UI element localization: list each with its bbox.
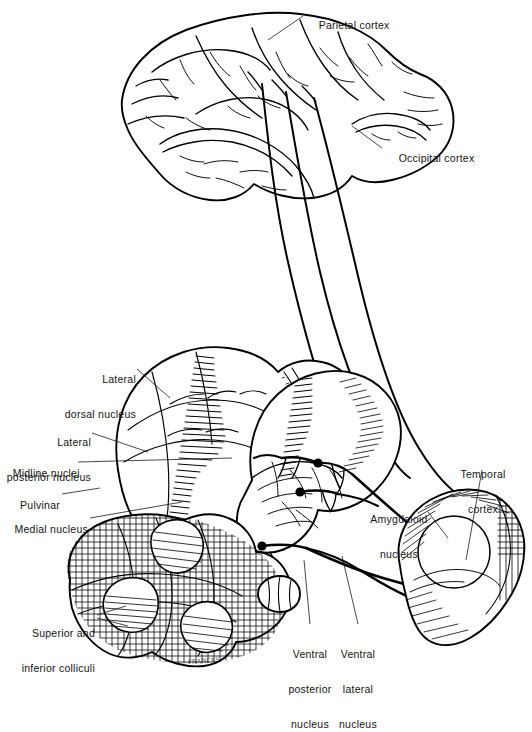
label-medial-nucleus-text: Medial nucleus [14,523,88,535]
label-temporal-cortex-line1: Temporal [448,469,518,481]
label-occipital-cortex: Occipital cortex [386,141,474,176]
label-midline-nuclei-text: Midline nuclei [13,467,80,479]
label-amygdaloid-line2: nucleus [363,549,435,561]
label-parietal-cortex: Parietal cortex [306,8,390,43]
artist-signature: FRANCES [188,656,220,666]
label-occipital-cortex-text: Occipital cortex [399,152,475,164]
label-lateral-posterior-nucleus-line1: Lateral [0,437,91,449]
label-ventral-lateral-line2: lateral [327,684,389,696]
label-ventral-lateral-nucleus: Ventral lateral nucleus [327,626,389,732]
label-medial-nucleus: Medial nucleus [0,512,88,547]
label-colliculi-line1: Superior and [0,628,95,640]
label-lateral-dorsal-nucleus-line1: Lateral [0,374,136,386]
label-parietal-cortex-text: Parietal cortex [319,19,390,31]
label-ventral-lateral-line1: Ventral [327,649,389,661]
label-temporal-cortex-line2: cortex [448,504,518,516]
label-midline-nuclei: Midline nuclei [0,456,76,491]
svg-text:FRANCES: FRANCES [188,656,220,666]
label-ventral-lateral-line3: nucleus [327,719,389,731]
label-temporal-cortex: Temporal cortex [448,446,518,539]
label-superior-inferior-colliculi: Superior and inferior colliculi [0,605,95,698]
label-pulvinar-text: Pulvinar [20,499,60,511]
label-amygdaloid-line1: Amygdaloid [363,514,435,526]
leader-ventral-posterior-nucleus [304,560,310,624]
label-colliculi-line2: inferior colliculi [0,663,95,675]
label-amygdaloid-nucleus: Amygdaloid nucleus [363,491,435,584]
